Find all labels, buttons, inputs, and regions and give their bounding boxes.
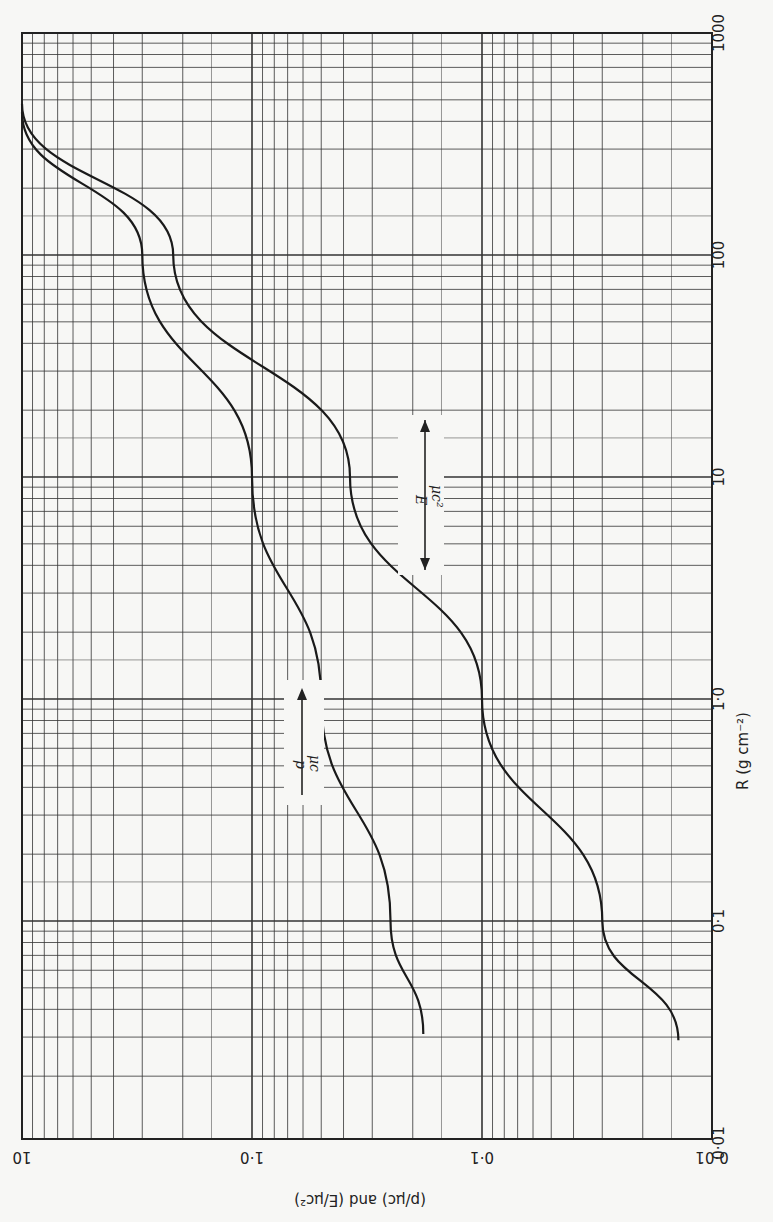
- r-axis-title: R (g cm⁻²): [734, 712, 752, 790]
- tick-labels: 1000100101·00·10·01101·00·10·01: [12, 14, 728, 1166]
- e-mu-c2-curve: [22, 104, 678, 1041]
- curves: [22, 104, 678, 1041]
- value-tick-label: 1·0: [240, 1148, 264, 1166]
- value-axis-title: (p/μc) and (E/μc²): [294, 1191, 426, 1209]
- value-tick-label: 0·01: [695, 1148, 728, 1166]
- r-tick-label: 10: [710, 467, 728, 486]
- p-label-num: p: [293, 760, 309, 769]
- value-tick-label: 0·1: [470, 1148, 494, 1166]
- p-curve-label: p μc: [284, 680, 324, 805]
- e-label-num: E: [413, 494, 429, 505]
- plot-frame: [22, 33, 712, 1139]
- chart-plot: 1000100101·00·10·01101·00·10·01 p μc E μ…: [0, 0, 773, 1222]
- r-tick-label: 0·1: [710, 909, 728, 933]
- value-tick-label: 10: [12, 1148, 31, 1166]
- r-tick-label: 1000: [710, 14, 728, 52]
- e-curve-label: E μc²: [398, 415, 445, 575]
- p-mu-c-curve: [22, 112, 423, 1034]
- p-label-den: μc: [307, 755, 323, 772]
- r-tick-label: 100: [710, 241, 728, 270]
- log-grid: [22, 33, 712, 1139]
- r-tick-label: 1·0: [710, 687, 728, 711]
- e-label-den: μc²: [429, 485, 445, 508]
